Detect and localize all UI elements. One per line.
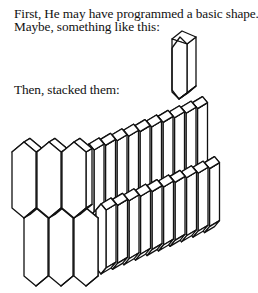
stacked-prisms-icon [0, 0, 258, 293]
